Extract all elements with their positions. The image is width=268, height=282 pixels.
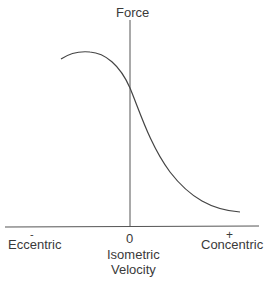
- origin-value: 0: [126, 232, 133, 245]
- x-axis: [5, 226, 259, 227]
- force-velocity-curve: [61, 52, 240, 212]
- concentric-label: Concentric: [201, 238, 263, 251]
- isometric-label: Isometric: [107, 248, 160, 261]
- eccentric-label: Eccentric: [8, 238, 61, 251]
- y-axis-label: Force: [116, 6, 149, 19]
- x-axis-label: Velocity: [111, 263, 156, 276]
